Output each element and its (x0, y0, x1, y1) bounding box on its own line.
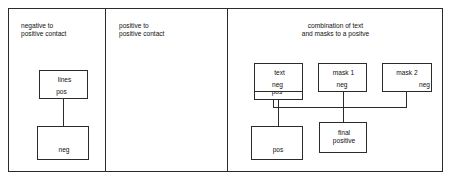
node-pos-panel-2: pos (251, 126, 303, 160)
node-label-lines: lines (40, 76, 89, 84)
node-label-mask-2: mask 2 (383, 69, 431, 77)
node-mask-2-neg: mask 2 neg (382, 63, 432, 92)
node-final-positive: final positive (319, 122, 367, 153)
connector-bus (273, 107, 407, 108)
connector-lines-pos-to-pos (278, 100, 279, 126)
node-text-neg: text neg (254, 63, 303, 92)
node-label-neg: neg (255, 81, 300, 89)
panel-1-title: negative to positive contact (21, 22, 66, 39)
diagram-canvas: negative to positive contact lines pos n… (0, 0, 452, 182)
node-mask-1-neg: mask 1 neg (318, 63, 367, 92)
connector-mask-2-drop (406, 92, 407, 107)
node-label-pos: pos (40, 88, 83, 96)
panel-positive-to-positive-contact: positive to positive contact lines pos p… (106, 8, 227, 172)
node-label-neg: neg (319, 81, 365, 89)
panel-2-title: positive to positive contact (119, 22, 164, 39)
node-label-mask-1: mask 1 (319, 69, 368, 77)
connector-lines-pos-to-neg (63, 99, 64, 126)
node-label-pos-bottom: pos (252, 146, 304, 154)
node-label-final-positive: final positive (320, 129, 368, 145)
node-label-neg: neg (38, 146, 90, 154)
node-neg-panel-1: neg (37, 126, 89, 160)
node-label-text: text (255, 69, 304, 77)
node-label-neg: neg (383, 81, 430, 89)
panel-negative-to-positive-contact: negative to positive contact lines pos n… (8, 8, 105, 172)
panel-3-title: combination of text and masks to a posit… (228, 22, 443, 39)
node-lines-pos-panel-1: lines pos (39, 70, 88, 99)
